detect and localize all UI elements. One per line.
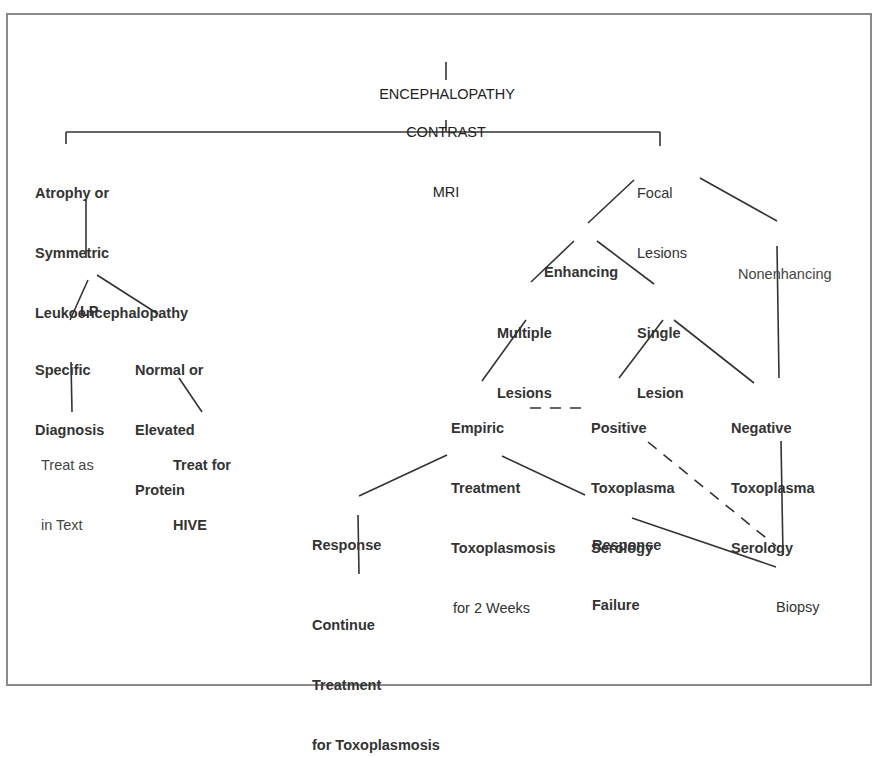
node-label: Treatment [312,675,440,695]
node-contrast-mri: CONTRAST MRI [386,82,506,222]
node-label: Single [637,323,684,343]
node-response-failure: Response Failure [592,495,661,635]
node-label: Treatment [451,478,555,498]
node-label: Enhancing [544,262,618,282]
node-label: LP [80,301,99,321]
node-label: Response [312,535,381,555]
edge-focal-enhancing [588,180,634,223]
node-label: Negative [731,418,815,438]
node-label: Normal or [135,360,204,380]
node-focal-lesions: Focal Lesions [637,143,687,283]
node-label: in Text [41,515,94,535]
node-label: Response [592,535,661,555]
node-label: Failure [592,595,661,615]
node-label: Toxoplasmosis [451,538,555,558]
node-biopsy: Biopsy [776,557,820,637]
node-label: Symmetric [35,243,188,263]
node-label: HIVE [173,515,231,535]
node-label: Treat as [41,455,94,475]
node-label: Positive [591,418,675,438]
node-label: Nonenhancing [738,264,832,284]
node-label: Treat for [173,455,231,475]
node-label: Multiple [497,323,552,343]
node-label: Lesions [637,243,687,263]
node-label: Serology [731,538,815,558]
node-treat-for-hive: Treat for HIVE [173,415,231,555]
node-label: Empiric [451,418,555,438]
node-label: CONTRAST [386,122,506,142]
edge-empiric-response [359,455,447,496]
node-continue-treatment: Continue Treatment for Toxoplasmosis [312,575,440,757]
node-label: for 2 Weeks [451,598,555,618]
edge-focal-nonenhancing [700,178,777,221]
node-label: Continue [312,615,440,635]
node-label: for Toxoplasmosis [312,735,440,755]
node-empiric-treatment: Empiric Treatment Toxoplasmosis for 2 We… [451,378,555,638]
node-response: Response [312,495,381,575]
edge-single-negative [674,320,754,383]
node-negative-serology: Negative Toxoplasma Serology [731,378,815,578]
node-label: Biopsy [776,597,820,617]
node-nonenhancing: Nonenhancing [738,224,832,304]
node-label: Toxoplasma [731,478,815,498]
node-treat-as-in-text: Treat as in Text [41,415,94,555]
node-label: Specific [35,360,104,380]
node-label: MRI [386,182,506,202]
node-atrophy: Atrophy or Symmetric Leukoencephalopathy [35,143,188,343]
node-enhancing: Enhancing [544,222,618,302]
node-label: Focal [637,183,687,203]
node-label: Atrophy or [35,183,188,203]
